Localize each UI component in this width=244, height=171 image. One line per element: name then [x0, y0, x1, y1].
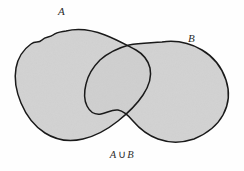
caption-right-operand: B — [127, 149, 134, 160]
set-b-label: B — [188, 33, 195, 44]
union-operator-symbol: ∪ — [117, 149, 128, 160]
set-a-label: A — [58, 6, 65, 17]
caption-left-operand: A — [110, 149, 117, 160]
figure-caption: A∪B — [0, 150, 244, 161]
venn-diagram-figure: A B A∪B — [0, 0, 244, 171]
venn-diagram-svg — [0, 0, 244, 171]
